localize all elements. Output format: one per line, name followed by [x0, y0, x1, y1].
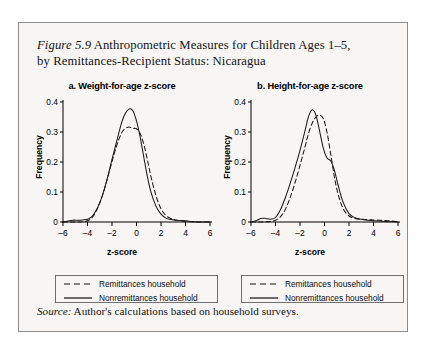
legend-row-nonremittances: Nonremittances household	[56, 291, 217, 304]
legend-row-remittances: Remittances household	[56, 277, 217, 290]
svg-text:2: 2	[159, 228, 164, 238]
panel-a-title: a. Weight-for-age z-score	[27, 81, 217, 91]
panel-a-svg: 00.10.20.30.4–6–4–20246	[27, 94, 217, 254]
svg-text:0: 0	[134, 228, 139, 238]
svg-text:–4: –4	[271, 228, 281, 238]
svg-text:0: 0	[53, 217, 58, 227]
chart-panels: a. Weight-for-age z-score 00.10.20.30.4–…	[19, 81, 409, 271]
svg-text:–2: –2	[107, 228, 117, 238]
panel-a-ylabel: Frequency	[34, 127, 44, 187]
svg-text:–2: –2	[295, 228, 305, 238]
svg-text:–4: –4	[83, 228, 93, 238]
figure-page: Figure 5.9 Anthropometric Measures for C…	[18, 22, 408, 332]
svg-text:–6: –6	[246, 228, 256, 238]
svg-text:0.3: 0.3	[234, 127, 246, 137]
svg-text:0.4: 0.4	[234, 97, 246, 107]
svg-text:0: 0	[241, 217, 246, 227]
source-note: Source: Author's calculations based on h…	[37, 305, 299, 317]
svg-text:6: 6	[208, 228, 213, 238]
solid-line-key-icon	[249, 294, 279, 302]
svg-text:0.1: 0.1	[46, 187, 58, 197]
svg-text:0: 0	[322, 228, 327, 238]
source-label: Source:	[37, 305, 71, 317]
page-title: Figure 5.9 Anthropometric Measures for C…	[37, 37, 377, 69]
svg-text:6: 6	[396, 228, 401, 238]
dashed-line-key-icon	[63, 280, 93, 288]
solid-line-key-icon	[63, 294, 93, 302]
chart-panel-weight-for-age: a. Weight-for-age z-score 00.10.20.30.4–…	[27, 81, 217, 271]
panel-b-plot: 00.10.20.30.4–6–4–20246 Frequency z-scor…	[215, 94, 405, 254]
legend-label-remittances: Remittances household	[99, 279, 186, 289]
chart-panel-height-for-age: b. Height-for-age z-score 00.10.20.30.4–…	[215, 81, 405, 271]
legend-label-remittances: Remittances household	[285, 279, 372, 289]
svg-text:4: 4	[183, 228, 188, 238]
legend-panel-b: Remittances household Nonremittances hou…	[241, 275, 404, 303]
svg-text:–6: –6	[58, 228, 68, 238]
dashed-line-key-icon	[249, 280, 279, 288]
panel-b-svg: 00.10.20.30.4–6–4–20246	[215, 94, 405, 254]
panel-b-xlabel: z-score	[215, 247, 405, 257]
svg-text:0.3: 0.3	[46, 127, 58, 137]
figure-number: Figure 5.9	[37, 38, 91, 52]
legend-panel-a: Remittances household Nonremittances hou…	[55, 275, 218, 303]
legend-row-nonremittances: Nonremittances household	[242, 291, 403, 304]
legend-row-remittances: Remittances household	[242, 277, 403, 290]
panel-a-xlabel: z-score	[27, 247, 217, 257]
svg-text:0.2: 0.2	[46, 157, 58, 167]
legend-label-nonremittances: Nonremittances household	[99, 293, 198, 303]
svg-text:0.2: 0.2	[234, 157, 246, 167]
panel-b-ylabel: Frequency	[222, 127, 232, 187]
source-text: Author's calculations based on household…	[71, 305, 298, 317]
svg-text:0.4: 0.4	[46, 97, 58, 107]
svg-text:4: 4	[371, 228, 376, 238]
panel-a-plot: 00.10.20.30.4–6–4–20246 Frequency z-scor…	[27, 94, 217, 254]
legend-label-nonremittances: Nonremittances household	[285, 293, 384, 303]
panel-b-title: b. Height-for-age z-score	[215, 81, 405, 91]
figure-title-line1: Anthropometric Measures for Children Age…	[91, 38, 350, 52]
svg-text:2: 2	[347, 228, 352, 238]
svg-text:0.1: 0.1	[234, 187, 246, 197]
figure-title-line2: by Remittances-Recipient Status: Nicarag…	[37, 54, 266, 68]
